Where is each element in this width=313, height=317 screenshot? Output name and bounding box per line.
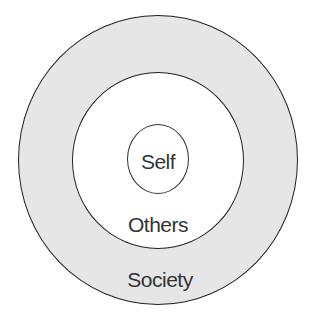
self-label: Self <box>128 151 188 172</box>
concentric-circles-diagram: Self Others Society <box>0 0 313 317</box>
others-label: Others <box>108 214 208 235</box>
society-label: Society <box>108 269 212 290</box>
